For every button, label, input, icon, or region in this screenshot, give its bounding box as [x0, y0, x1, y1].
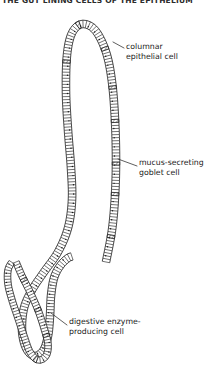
label-mucus-secreting-goblet-cell: mucus-secreting goblet cell: [139, 158, 204, 177]
label-enzyme-line1: digestive enzyme-: [69, 317, 141, 326]
figure-root: THE GUT LINING CELLS OF THE EPITHELIUM c…: [0, 0, 218, 379]
label-digestive-enzyme-producing-cell: digestive enzyme- producing cell: [69, 317, 141, 336]
villus-epithelium: [18, 20, 120, 360]
leader-line-goblet: [118, 159, 137, 166]
label-goblet-line1: mucus-secreting: [139, 158, 204, 167]
label-columnar-epithelial-cell: columnar epithelial cell: [126, 42, 178, 61]
label-enzyme-line2: producing cell: [69, 327, 141, 337]
label-columnar-line1: columnar: [126, 42, 163, 51]
label-goblet-line2: goblet cell: [139, 168, 204, 178]
label-columnar-line2: epithelial cell: [126, 52, 178, 62]
leader-line-columnar: [113, 42, 124, 48]
